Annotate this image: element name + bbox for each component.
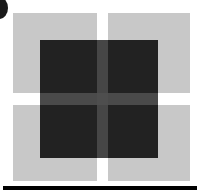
dark-gap-center	[97, 93, 108, 105]
dark-gap-vertical-bottom	[97, 105, 108, 158]
figure-canvas	[0, 0, 203, 193]
dark-cell-bottom-left	[40, 105, 97, 158]
dark-center-block	[40, 40, 158, 158]
dark-gap-horizontal-right	[108, 93, 158, 105]
dark-cell-bottom-right	[108, 105, 158, 158]
dark-gap-horizontal-left	[40, 93, 97, 105]
corner-crescent-mark	[0, 0, 8, 19]
dark-cell-top-right	[108, 40, 158, 93]
dark-gap-vertical-top	[97, 40, 108, 93]
bottom-horizontal-rule	[3, 186, 197, 190]
dark-cell-top-left	[40, 40, 97, 93]
